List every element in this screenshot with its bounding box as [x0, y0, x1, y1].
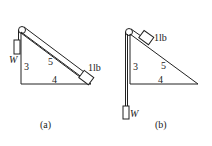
- caption-b: (b): [155, 119, 167, 131]
- rope-incline-a: [24, 27, 88, 75]
- weight-block-a: [14, 40, 20, 54]
- block-label-b: 1lb: [154, 32, 167, 43]
- side-label-vertical-b: 3: [133, 61, 138, 72]
- side-label-hypotenuse-a: 5: [48, 56, 53, 67]
- block-label-a: 1lb: [88, 62, 101, 73]
- side-label-base-b: 4: [158, 74, 163, 85]
- side-label-base-a: 4: [52, 74, 57, 85]
- weight-label-a: W: [9, 54, 19, 65]
- figure: W 3 5 4 1lb (a) W 3 5 4 1lb (b): [0, 0, 212, 146]
- caption-a: (a): [40, 119, 51, 131]
- weight-block-b: [123, 106, 129, 119]
- side-label-hypotenuse-b: 5: [161, 60, 166, 71]
- side-label-vertical-a: 3: [24, 61, 29, 72]
- weight-label-b: W: [130, 108, 140, 119]
